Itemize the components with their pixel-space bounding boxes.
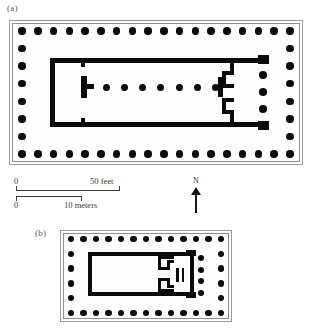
plan-a-column-bottom-3 [66, 150, 74, 158]
plan-b-porch-column-3 [198, 290, 204, 296]
north-arrow: N [182, 176, 210, 214]
plan-a-column-right-1 [286, 45, 294, 53]
plan-b-porch-column-1 [198, 267, 204, 273]
plan-a-stylobate-inner [12, 23, 300, 162]
plan-a-step-mid-south [222, 98, 234, 102]
plan-a-spur-south-east [230, 114, 234, 127]
scale-bar: 0 50 feet 0 10 meters [14, 176, 144, 210]
plan-a-inner-column-5 [194, 84, 201, 91]
plan-a-column-right-5 [286, 115, 294, 123]
plan-a-column-top-12 [207, 27, 215, 35]
plan-a-anta-southeast [258, 121, 269, 130]
plan-a-spur-south-west [81, 118, 85, 127]
plan-a-column-bottom-4 [81, 150, 89, 158]
plan-a-column-bottom-8 [144, 150, 152, 158]
plan-a-column-left-5 [18, 115, 26, 123]
plan-a-column-right-4 [286, 98, 294, 106]
plan-a-column-bottom-13 [223, 150, 231, 158]
plan-a-inner-column-4 [176, 84, 183, 91]
plan-b-stylobate [60, 230, 232, 322]
scale-meters-zero-label: 0 [14, 200, 18, 210]
plan-a-figure [9, 20, 303, 165]
plan-a-caption: (a) [7, 3, 18, 13]
scale-feet-bar [16, 190, 120, 191]
plan-a-column-top-3 [66, 27, 74, 35]
plan-b-cella-wall-north [88, 252, 196, 256]
plan-a-column-top-15 [255, 27, 263, 35]
plan-b-column-bottom-1 [80, 310, 87, 317]
scale-meters-max-label: 10 meters [64, 200, 97, 210]
plan-a-spur-north-west [81, 58, 85, 67]
plan-a-column-bottom-15 [255, 150, 263, 158]
scale-feet-tick-end [119, 186, 120, 191]
plan-b-column-left-3 [68, 280, 75, 287]
plan-a-column-left-1 [18, 45, 26, 53]
plan-b-corner-southeast [186, 293, 196, 298]
plan-a-spur-north-east [230, 58, 234, 71]
plan-b-porch-column-0 [198, 255, 204, 261]
plan-a-column-top-1 [34, 27, 42, 35]
plan-b-column-bottom-9 [180, 310, 187, 317]
plan-a-axial-anta-head [81, 76, 87, 98]
plan-a-column-right-6 [286, 133, 294, 141]
plan-a-column-bottom-17 [286, 150, 294, 158]
plan-b-column-left-2 [68, 265, 75, 272]
plan-b-threshold-outer [182, 268, 184, 282]
north-shaft [195, 194, 197, 213]
plan-b-porch-wall-east [190, 252, 194, 296]
plan-b-porch-column-2 [198, 278, 204, 284]
plan-b-column-top-7 [155, 236, 162, 243]
plan-a-column-top-8 [144, 27, 152, 35]
plan-a-column-top-16 [270, 27, 278, 35]
plan-a-column-bottom-10 [176, 150, 184, 158]
plan-a-column-top-0 [18, 27, 26, 35]
plan-b-column-bottom-7 [155, 310, 162, 317]
plan-a-porch-column-2 [259, 105, 267, 113]
plan-a-column-bottom-6 [113, 150, 121, 158]
plan-b-column-bottom-11 [205, 310, 212, 317]
plan-b-column-top-9 [180, 236, 187, 243]
plan-a-column-top-13 [223, 27, 231, 35]
plan-b-column-right-3 [218, 280, 225, 287]
plan-a-inner-column-3 [157, 84, 164, 91]
plan-b-column-top-1 [80, 236, 87, 243]
plan-a-column-left-4 [18, 98, 26, 106]
plan-b-column-top-3 [105, 236, 112, 243]
plan-a-column-top-4 [81, 27, 89, 35]
scale-meters-bar [16, 196, 82, 197]
plan-a-column-top-5 [97, 27, 105, 35]
plan-a-inner-column-2 [139, 84, 146, 91]
plan-b-anta-north-cap [167, 260, 174, 263]
plan-b-column-right-2 [218, 265, 225, 272]
plan-a-column-top-17 [286, 27, 294, 35]
scale-feet-max-label: 50 feet [90, 176, 113, 186]
plan-b-column-top-11 [205, 236, 212, 243]
scale-feet-tick-start [16, 186, 17, 191]
north-label: N [182, 176, 210, 185]
plan-a-column-top-10 [176, 27, 184, 35]
plan-b-corner-northeast [186, 250, 196, 255]
plan-a-column-top-9 [160, 27, 168, 35]
plan-a-column-bottom-0 [18, 150, 26, 158]
plan-b-cella-wall-south [88, 292, 196, 296]
plan-a-column-top-7 [129, 27, 137, 35]
plan-a-column-top-2 [50, 27, 58, 35]
plan-a-porch-column-1 [259, 88, 267, 96]
plan-a-column-bottom-2 [50, 150, 58, 158]
scale-feet-zero-label: 0 [14, 176, 18, 186]
plan-a-column-left-2 [18, 62, 26, 70]
plan-b-cella-wall-west [88, 252, 92, 296]
plan-a-porch-column-0 [259, 71, 267, 79]
plan-a-column-bottom-11 [192, 150, 200, 158]
plan-a-column-bottom-9 [160, 150, 168, 158]
plan-a-column-bottom-16 [270, 150, 278, 158]
plan-a-column-left-6 [18, 133, 26, 141]
plan-a-column-top-6 [113, 27, 121, 35]
plan-a-cella-wall-west [50, 58, 55, 127]
plan-b-column-bottom-3 [105, 310, 112, 317]
plan-a-column-bottom-5 [97, 150, 105, 158]
plan-a-anta-northeast [258, 55, 269, 64]
plan-a-column-bottom-12 [207, 150, 215, 158]
plan-a-column-bottom-7 [129, 150, 137, 158]
plan-a-inner-column-6 [212, 84, 219, 91]
